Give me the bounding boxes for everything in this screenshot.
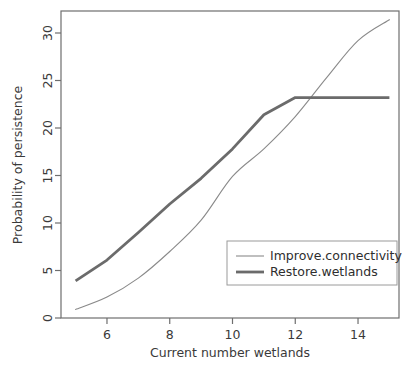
x-axis-title: Current number wetlands [150,345,310,360]
y-tick-label: 30 [40,25,55,41]
y-axis-title: Probability of persistence [10,85,25,244]
y-tick-label: 15 [40,168,55,184]
x-tick-label: 12 [287,327,303,342]
y-tick-label: 25 [40,73,55,89]
legend-label-improve-connectivity: Improve.connectivity [270,248,402,263]
y-tick-label: 0 [40,314,55,322]
x-tick-label: 6 [103,327,111,342]
chart-container: 051015202530 68101214 Probability of per… [0,0,411,365]
x-axis-ticks: 68101214 [103,318,366,342]
y-tick-label: 5 [40,267,55,275]
x-tick-label: 8 [166,327,174,342]
y-axis-ticks: 051015202530 [40,25,62,322]
y-tick-label: 20 [40,120,55,136]
chart-legend: Improve.connectivity Restore.wetlands [227,241,402,285]
legend-label-restore-wetlands: Restore.wetlands [270,264,378,279]
x-tick-label: 10 [225,327,241,342]
x-tick-label: 14 [350,327,366,342]
line-chart: 051015202530 68101214 Probability of per… [0,0,411,365]
y-tick-label: 10 [40,215,55,231]
